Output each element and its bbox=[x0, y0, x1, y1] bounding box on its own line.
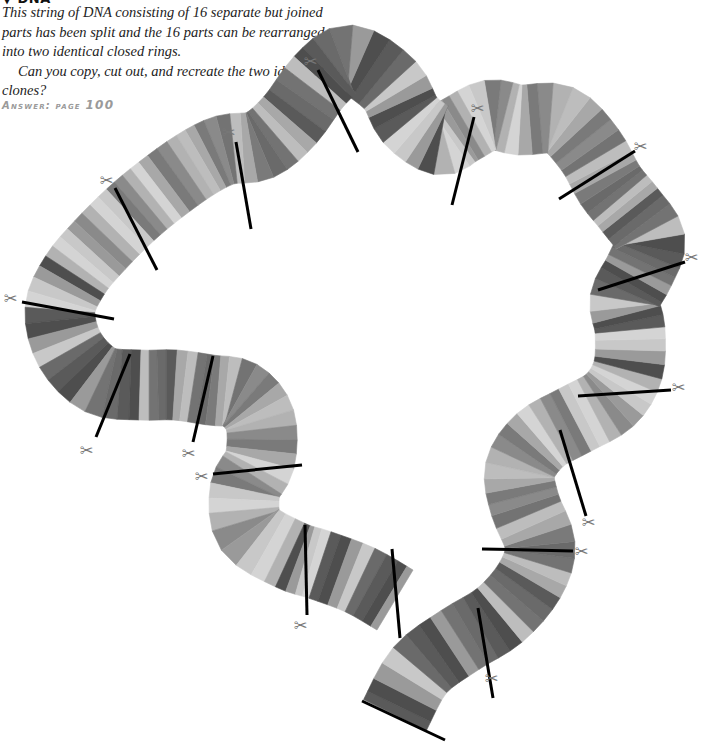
scissors-icon: ✂ bbox=[672, 378, 685, 397]
dna-segment bbox=[139, 350, 149, 420]
scissors-icon: ✂ bbox=[222, 123, 235, 142]
scissors-icon: ✂ bbox=[100, 171, 113, 190]
scissors-icon: ✂ bbox=[582, 513, 595, 532]
cut-line bbox=[482, 549, 573, 551]
dna-segments bbox=[25, 25, 684, 730]
scissors-icon: ✂ bbox=[634, 137, 647, 156]
scissors-icon: ✂ bbox=[195, 467, 208, 486]
scissors-icon: ✂ bbox=[471, 99, 484, 118]
scissors-icon: ✂ bbox=[575, 542, 588, 561]
dna-strand-illustration: ✂✂✂✂✂✂✂✂✂✂✂✂✂✂✂ bbox=[0, 0, 708, 751]
scissors-icon: ✂ bbox=[4, 289, 17, 308]
scissors-icon: ✂ bbox=[294, 616, 307, 635]
cut-line bbox=[305, 525, 307, 615]
dna-segment bbox=[157, 350, 167, 420]
dna-segment bbox=[595, 339, 665, 351]
scissors-icon: ✂ bbox=[304, 52, 317, 71]
scissors-icon: ✂ bbox=[685, 248, 698, 267]
scissors-icon: ✂ bbox=[182, 444, 195, 463]
scissors-icon: ✂ bbox=[485, 669, 498, 688]
scissors-icon: ✂ bbox=[80, 441, 93, 460]
